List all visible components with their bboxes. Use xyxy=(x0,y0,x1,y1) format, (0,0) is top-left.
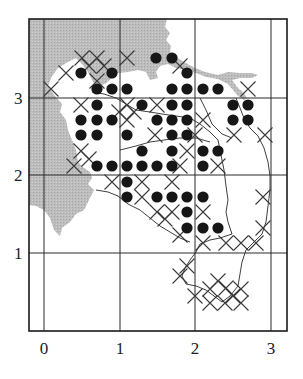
cross-marker xyxy=(196,236,211,251)
cross-marker xyxy=(234,236,249,251)
cross-marker xyxy=(196,113,211,128)
cross-marker xyxy=(226,289,241,304)
dot-marker xyxy=(121,83,132,94)
cross-marker xyxy=(74,98,89,113)
dot-marker xyxy=(150,52,161,63)
dot-marker xyxy=(166,129,177,140)
cross-marker xyxy=(105,175,120,190)
dot-marker xyxy=(136,145,147,156)
cross-marker xyxy=(150,98,165,113)
land-area xyxy=(29,19,258,236)
dot-marker xyxy=(75,67,86,78)
x-tick-label: 0 xyxy=(40,340,49,357)
cross-marker xyxy=(256,190,271,205)
y-tick-label: 3 xyxy=(14,90,23,107)
dot-marker xyxy=(242,114,253,125)
dot-marker xyxy=(91,83,102,94)
dot-marker xyxy=(197,145,208,156)
cross-marker xyxy=(173,269,188,284)
cross-marker xyxy=(234,296,249,311)
dot-marker xyxy=(91,160,102,171)
dot-marker xyxy=(75,114,86,125)
y-tick-label: 1 xyxy=(14,245,23,262)
x-tick-label: 1 xyxy=(116,340,125,357)
dot-marker xyxy=(181,83,192,94)
dot-marker xyxy=(166,99,177,110)
dot-marker xyxy=(91,99,102,110)
cross-marker xyxy=(219,236,234,251)
cross-marker xyxy=(59,66,74,81)
cross-marker xyxy=(180,259,195,274)
dot-marker xyxy=(212,83,223,94)
dot-marker xyxy=(121,191,132,202)
dot-marker xyxy=(166,160,177,171)
dot-marker xyxy=(121,129,132,140)
cross-marker xyxy=(165,175,180,190)
dot-marker xyxy=(106,114,117,125)
dot-marker xyxy=(106,67,117,78)
dot-marker xyxy=(91,114,102,125)
dot-marker xyxy=(197,191,208,202)
cross-marker xyxy=(219,281,234,296)
dot-marker xyxy=(242,99,253,110)
dot-marker xyxy=(197,222,208,233)
x-tick-label: 2 xyxy=(191,340,200,357)
cross-marker xyxy=(150,205,165,220)
cross-marker xyxy=(256,221,271,236)
dot-marker xyxy=(212,222,223,233)
dot-marker xyxy=(106,160,117,171)
cross-marker xyxy=(158,212,173,227)
dot-marker xyxy=(75,129,86,140)
cross-marker xyxy=(203,282,218,297)
dot-marker xyxy=(227,114,238,125)
distribution-map xyxy=(0,0,303,379)
dot-marker xyxy=(227,99,238,110)
cross-marker xyxy=(227,128,242,143)
dot-marker xyxy=(166,191,177,202)
dot-marker xyxy=(181,99,192,110)
cross-marker xyxy=(148,128,163,143)
y-tick-label: 2 xyxy=(14,167,23,184)
x-tick-label: 3 xyxy=(267,340,276,357)
dot-marker xyxy=(181,206,192,217)
dot-marker xyxy=(166,145,177,156)
dot-marker xyxy=(181,191,192,202)
cross-marker xyxy=(196,205,211,220)
dot-marker xyxy=(151,114,162,125)
dot-marker xyxy=(166,114,177,125)
cross-marker xyxy=(249,236,264,251)
dot-marker xyxy=(212,145,223,156)
dot-marker xyxy=(181,129,192,140)
cross-marker xyxy=(135,190,150,205)
cross-marker xyxy=(120,113,135,128)
dot-marker xyxy=(136,99,147,110)
dot-marker xyxy=(181,67,192,78)
dot-marker xyxy=(197,160,208,171)
cross-marker xyxy=(258,128,273,143)
contour-lines xyxy=(92,92,270,302)
dot-marker xyxy=(166,83,177,94)
dot-marker xyxy=(91,129,102,140)
cross-marker xyxy=(135,175,150,190)
dot-marker xyxy=(181,222,192,233)
dot-marker xyxy=(121,160,132,171)
dot-marker xyxy=(151,160,162,171)
dot-marker xyxy=(106,83,117,94)
dot-marker xyxy=(136,160,147,171)
cross-marker xyxy=(218,296,233,311)
cross-marker xyxy=(180,144,195,159)
dot-marker xyxy=(166,52,177,63)
dot-marker xyxy=(151,191,162,202)
dot-marker xyxy=(181,114,192,125)
cross-marker xyxy=(203,296,218,311)
dot-marker xyxy=(197,83,208,94)
dot-marker xyxy=(121,176,132,187)
cross-marker xyxy=(241,82,256,97)
